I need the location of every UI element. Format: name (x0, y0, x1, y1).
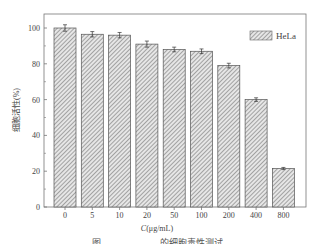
x-axis: 05102050100200400800 (63, 207, 289, 220)
x-tick-label: 5 (90, 211, 94, 220)
y-tick-label: 0 (36, 203, 40, 212)
figure-caption: 图 ……………… 的细胞毒性测试 (0, 236, 315, 244)
y-tick-label: 20 (32, 167, 40, 176)
bar-20 (136, 44, 158, 207)
y-tick-label: 100 (28, 24, 40, 33)
bar-100 (191, 51, 213, 207)
bar-50 (163, 49, 185, 207)
x-tick-label: 0 (63, 211, 67, 220)
bar-5 (81, 34, 103, 207)
bar-chart: 020406080100 05102050100200400800 HeLa C… (0, 0, 315, 244)
bar-10 (109, 35, 131, 207)
x-tick-label: 200 (223, 211, 235, 220)
x-tick-label: 50 (170, 211, 178, 220)
bars (54, 25, 294, 207)
legend-label: HeLa (276, 31, 296, 41)
x-axis-title: C(μg/mL) (141, 224, 174, 233)
x-tick-label: 100 (196, 211, 208, 220)
y-tick-label: 60 (32, 96, 40, 105)
y-tick-label: 40 (32, 131, 40, 140)
y-tick-label: 80 (32, 60, 40, 69)
y-axis-title: 细胞活性(%) (11, 88, 21, 132)
bar-400 (245, 100, 267, 207)
x-tick-label: 20 (143, 211, 151, 220)
legend: HeLa (250, 31, 296, 41)
bar-800 (272, 169, 294, 207)
x-tick-label: 10 (116, 211, 124, 220)
x-tick-label: 400 (250, 211, 262, 220)
bar-200 (218, 66, 240, 207)
bar-0 (54, 28, 76, 207)
legend-swatch (250, 31, 272, 40)
x-tick-label: 800 (277, 211, 289, 220)
